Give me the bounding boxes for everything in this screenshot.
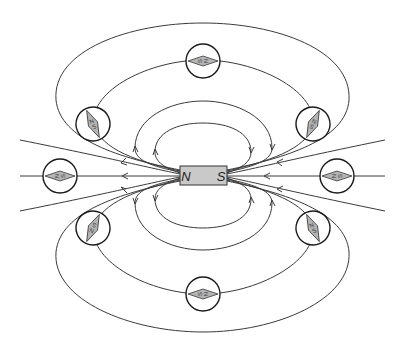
arrow-icon: [249, 147, 254, 153]
bar-magnet-field-diagram: S N N S N S N S N S S N N S: [0, 0, 405, 349]
compass-upper-right: N S: [290, 101, 335, 146]
needle-north-label: N: [203, 59, 209, 63]
bar-magnet: N S: [180, 166, 227, 185]
inner-field-line-bottom-1: [135, 179, 272, 250]
magnet-south-pole-label: S: [217, 169, 226, 184]
needle-south-label: S: [60, 174, 66, 178]
compass-upper-left: N S: [70, 101, 115, 146]
arrow-icon: [270, 144, 275, 150]
field-arrows: [71, 144, 283, 206]
compass-left: N S: [43, 159, 77, 193]
needle-north-label: N: [203, 292, 209, 296]
needle-south-label: S: [337, 174, 343, 178]
inner-field-line-top-1: [135, 101, 272, 172]
compass-lower-right: N S: [290, 205, 335, 250]
arrow-icon: [249, 197, 254, 203]
fan-line-right-upper: [227, 140, 385, 174]
compass-lower-left: S N: [70, 205, 115, 250]
magnet-north-pole-label: N: [181, 169, 191, 184]
fan-line-right-lower: [227, 177, 385, 211]
compass-bottom: S N: [186, 277, 220, 311]
compass-right: N S: [320, 159, 354, 193]
compass-top: S N: [186, 44, 220, 78]
